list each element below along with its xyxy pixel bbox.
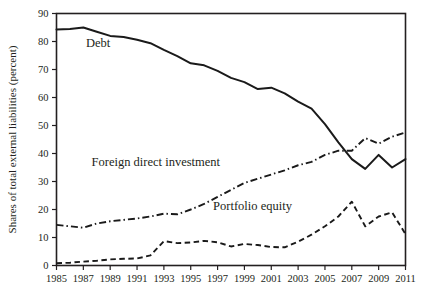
y-axis-title: Shares of total external liabilities (pe…: [6, 45, 19, 233]
x-tick-label: 1997: [207, 273, 228, 284]
y-tick-label: 80: [38, 36, 49, 47]
x-tick-label: 2009: [368, 273, 389, 284]
series-label-foreign-direct-investment: Foreign direct investment: [92, 155, 221, 169]
y-axis: 0102030405060708090: [38, 8, 57, 271]
y-tick-label: 50: [38, 120, 49, 131]
x-tick-label: 1999: [234, 273, 255, 284]
plot-frame: [57, 14, 406, 266]
x-tick-label: 2003: [288, 273, 309, 284]
y-tick-label: 70: [38, 64, 49, 75]
y-tick-label: 90: [38, 8, 49, 19]
series-label-debt: Debt: [86, 36, 111, 50]
x-tick-label: 2011: [395, 273, 416, 284]
x-tick-label: 2001: [261, 273, 282, 284]
x-tick-label: 1995: [180, 273, 201, 284]
y-tick-label: 10: [38, 232, 49, 243]
x-tick-label: 1991: [127, 273, 148, 284]
y-tick-label: 60: [38, 92, 49, 103]
y-tick-label: 20: [38, 204, 49, 215]
x-tick-label: 1989: [100, 273, 121, 284]
chart-figure: 0102030405060708090198519871989199119931…: [0, 0, 421, 298]
figure-caption-partial: [8, 289, 413, 298]
x-tick-label: 1985: [46, 273, 67, 284]
y-tick-label: 40: [38, 148, 49, 159]
series-label-portfolio-equity: Portfolio equity: [213, 199, 293, 213]
y-tick-label: 0: [43, 260, 48, 271]
x-tick-label: 2005: [314, 273, 335, 284]
series-line-foreign-direct-investment: [57, 133, 406, 228]
x-tick-label: 2007: [341, 273, 362, 284]
x-tick-label: 1993: [153, 273, 174, 284]
line-chart: 0102030405060708090198519871989199119931…: [0, 0, 421, 298]
y-tick-label: 30: [38, 176, 49, 187]
x-tick-label: 1987: [73, 273, 94, 284]
x-axis: 1985198719891991199319951997199920012003…: [46, 266, 416, 285]
